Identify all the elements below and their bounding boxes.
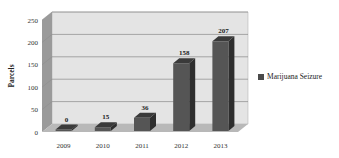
bar-2012: [173, 63, 189, 131]
data-label: 0: [65, 116, 69, 124]
data-label: 36: [142, 104, 150, 112]
bar-side: [228, 36, 234, 131]
y-tick-label: 50: [31, 106, 39, 114]
x-tick-label: 2009: [57, 142, 72, 150]
legend-swatch: [258, 74, 264, 80]
y-axis-label: Parcels: [7, 64, 16, 87]
bar-2013: [212, 41, 228, 131]
x-tick-label: 2011: [135, 142, 149, 150]
data-label: 207: [218, 27, 229, 35]
bar-side: [189, 58, 195, 131]
bar-2011: [134, 118, 150, 131]
x-tick-label: 2012: [174, 142, 189, 150]
x-tick-label: 2010: [96, 142, 111, 150]
y-tick-label: 250: [28, 17, 39, 25]
y-tick-label: 0: [35, 129, 39, 137]
bar-2009: [56, 130, 72, 132]
legend: Marijuana Seizure: [258, 72, 322, 81]
side-wall: [42, 12, 52, 132]
legend-label: Marijuana Seizure: [267, 72, 322, 81]
y-tick-label: 150: [28, 61, 39, 69]
data-label: 15: [102, 113, 110, 121]
x-tick-label: 2013: [213, 142, 228, 150]
bar-2010: [95, 127, 111, 131]
data-label: 158: [179, 49, 190, 57]
y-tick-label: 200: [28, 39, 39, 47]
y-tick-label: 100: [28, 84, 39, 92]
